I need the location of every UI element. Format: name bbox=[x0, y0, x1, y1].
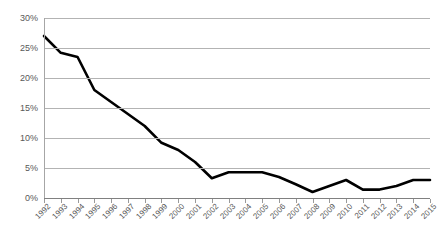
gridline bbox=[44, 138, 430, 139]
y-tick-label: 20% bbox=[0, 74, 38, 83]
line-chart: 0%5%10%15%20%25%30% 19921993199419951996… bbox=[0, 0, 444, 238]
y-tick-label: 15% bbox=[0, 104, 38, 113]
x-axis-tick-labels: 1992199319941995199619971998199920002001… bbox=[44, 202, 430, 238]
y-tick-label: 30% bbox=[0, 14, 38, 23]
y-tick-label: 5% bbox=[0, 164, 38, 173]
gridline bbox=[44, 48, 430, 49]
y-tick-label: 10% bbox=[0, 134, 38, 143]
y-axis-line bbox=[44, 18, 45, 199]
y-tick-label: 0% bbox=[0, 194, 38, 203]
gridline bbox=[44, 108, 430, 109]
x-axis-line bbox=[44, 198, 430, 199]
y-tick-label: 25% bbox=[0, 44, 38, 53]
gridline bbox=[44, 18, 430, 19]
gridline bbox=[44, 168, 430, 169]
gridline bbox=[44, 78, 430, 79]
